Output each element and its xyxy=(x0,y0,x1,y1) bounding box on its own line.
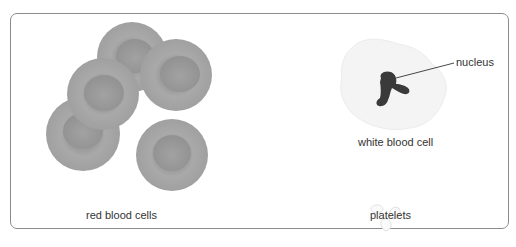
white-blood-cell-label: white blood cell xyxy=(358,136,433,148)
red-blood-cell xyxy=(140,39,212,111)
white-blood-cell xyxy=(341,39,454,129)
red-blood-cell xyxy=(136,119,208,191)
nucleus-label: nucleus xyxy=(456,56,494,68)
blood-cells-illustration xyxy=(0,0,516,247)
red-blood-cells xyxy=(46,22,212,191)
red-blood-cells-label: red blood cells xyxy=(86,209,157,221)
platelets-label: platelets xyxy=(370,209,411,221)
red-blood-cell xyxy=(67,58,139,130)
